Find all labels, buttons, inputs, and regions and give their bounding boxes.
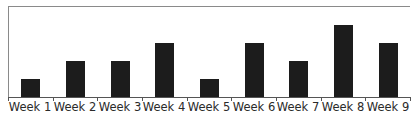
x-tick-label: Week 4 bbox=[142, 100, 186, 114]
bar-chart: Week 1Week 2Week 3Week 4Week 5Week 6Week… bbox=[0, 0, 412, 125]
bar bbox=[334, 25, 353, 97]
plot-frame-left bbox=[8, 6, 9, 98]
x-tick-label: Week 3 bbox=[98, 100, 142, 114]
x-tick-label: Week 7 bbox=[276, 100, 320, 114]
x-tick-label: Week 6 bbox=[232, 100, 276, 114]
bar bbox=[379, 43, 398, 97]
bar bbox=[289, 61, 308, 97]
x-tick-label: Week 5 bbox=[187, 100, 231, 114]
bar bbox=[155, 43, 174, 97]
bar bbox=[200, 79, 219, 97]
bar bbox=[66, 61, 85, 97]
bar bbox=[21, 79, 40, 97]
plot-frame-top bbox=[8, 6, 410, 7]
x-axis bbox=[8, 97, 410, 98]
x-tick-label: Week 8 bbox=[321, 100, 365, 114]
x-tick-label: Week 9 bbox=[366, 100, 410, 114]
x-tick-label: Week 1 bbox=[8, 100, 52, 114]
x-tick-mark bbox=[410, 97, 411, 101]
bar bbox=[245, 43, 264, 97]
x-tick-label: Week 2 bbox=[53, 100, 97, 114]
bar bbox=[111, 61, 130, 97]
